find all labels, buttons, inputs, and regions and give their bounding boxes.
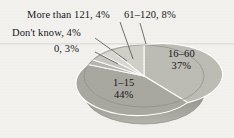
label-1-15: 1–15 44% xyxy=(113,77,134,100)
pie-chart-figure: More than 121, 4% Don't know, 4% 0, 3% 6… xyxy=(0,0,234,138)
label-zero: 0, 3% xyxy=(54,43,79,55)
leader-line-61-120 xyxy=(140,23,146,44)
label-16-60-category: 16–60 xyxy=(168,48,195,60)
pie-slices-top-face xyxy=(76,43,222,115)
label-1-15-percent: 44% xyxy=(113,89,134,101)
pie-chart-graphic xyxy=(0,0,234,138)
label-16-60: 16–60 37% xyxy=(168,48,195,71)
label-61-120: 61–120, 8% xyxy=(124,9,176,21)
label-dont-know: Don't know, 4% xyxy=(12,27,81,39)
label-16-60-percent: 37% xyxy=(168,60,195,72)
label-more-than-121: More than 121, 4% xyxy=(27,9,110,21)
label-1-15-category: 1–15 xyxy=(113,77,134,89)
